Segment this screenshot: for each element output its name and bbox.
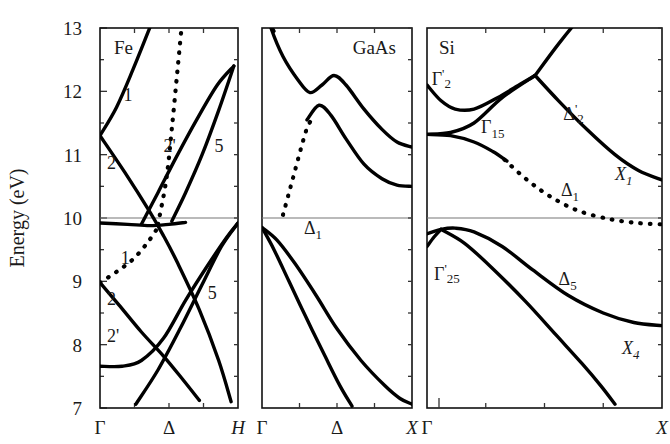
x-tick-label: Δ (331, 417, 343, 438)
band-annotation: Δ'2 (563, 101, 583, 126)
x-tick-label: X (405, 417, 419, 438)
plot-svg: Energy (eV)13121110987FeΓΔHGaAsΓΔXSiΓX12… (0, 0, 670, 444)
y-tick-label: 9 (73, 271, 83, 292)
x-tick-label: H (230, 417, 246, 438)
y-tick-label: 13 (63, 18, 82, 39)
panel-title: Fe (114, 37, 133, 58)
band-annotation: 1 (123, 85, 132, 105)
panel-title: GaAs (353, 37, 396, 58)
x-tick-label: Γ (95, 417, 106, 438)
band-curve (441, 229, 615, 404)
band-annotation: Γ'25 (434, 261, 460, 286)
band-annotation: X4 (621, 338, 640, 362)
x-tick-label: Δ (163, 417, 175, 438)
band-annotation: Γ'2 (432, 66, 451, 91)
panel-bands (100, 0, 238, 404)
band-annotation: Δ1 (304, 218, 322, 242)
x-tick-label: Γ (422, 417, 433, 438)
band-annotation: Γ15 (481, 117, 504, 141)
y-tick-label: 8 (73, 335, 83, 356)
band-annotation: 5 (215, 136, 224, 156)
band-curve (158, 0, 186, 224)
band-curve (535, 0, 601, 75)
band-annotation: Δ1 (561, 180, 579, 204)
x-tick-label: Γ (257, 417, 268, 438)
band-curve (262, 0, 274, 31)
band-annotation: 2' (107, 326, 119, 346)
band-annotation: 1 (121, 248, 130, 268)
y-axis-title: Energy (eV) (6, 168, 29, 267)
y-tick-label: 12 (63, 81, 82, 102)
band-structure-figure: Energy (eV)13121110987FeΓΔHGaAsΓΔXSiΓX12… (0, 0, 670, 444)
y-tick-label: 10 (63, 208, 82, 229)
band-annotation: 2 (107, 153, 116, 173)
y-tick-label: 7 (73, 398, 83, 419)
panel-bands (262, 0, 412, 406)
band-annotation: 2 (107, 289, 116, 309)
band-curve (307, 105, 412, 186)
band-annotation: 2' (163, 136, 175, 156)
band-curve (283, 120, 312, 215)
panel-title: Si (439, 37, 455, 58)
y-tick-label: 11 (64, 145, 82, 166)
band-curve (262, 228, 352, 407)
band-curve (100, 0, 161, 136)
x-tick-label: X (655, 417, 669, 438)
band-annotation: X1 (614, 164, 633, 188)
band-curve (535, 76, 662, 181)
band-annotation: 5 (208, 283, 217, 303)
band-curve (172, 66, 234, 221)
